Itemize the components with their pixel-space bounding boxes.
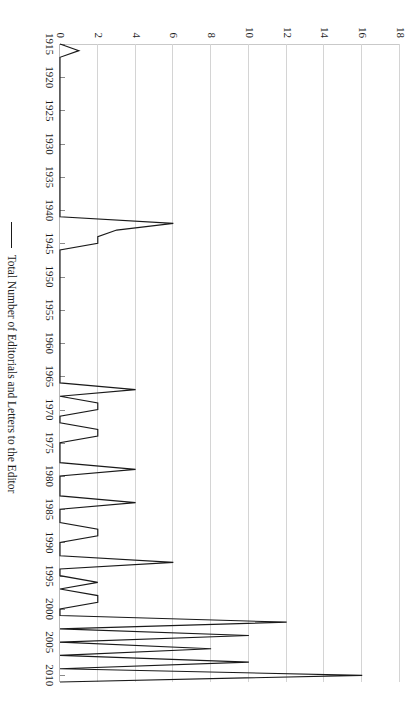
y-tick-label-16: 16	[357, 27, 368, 38]
x-tick-label-1975: 1975	[44, 432, 55, 454]
x-tick-label-1970: 1970	[44, 399, 55, 421]
y-tick-label-12: 12	[281, 27, 292, 38]
x-tick-label-1995: 1995	[44, 565, 55, 587]
x-tick-label-1915: 1915	[44, 33, 55, 55]
x-tick-label-2005: 2005	[44, 631, 55, 653]
line-chart-figure: 024681012141618 191519201925193019351940…	[0, 0, 418, 715]
y-tick-label-2: 2	[92, 33, 103, 39]
y-tick-label-14: 14	[319, 27, 330, 38]
x-tick-label-1955: 1955	[44, 299, 55, 321]
x-tick-label-2010: 2010	[44, 664, 55, 686]
x-tick-label-1930: 1930	[44, 133, 55, 155]
x-tick-label-1920: 1920	[44, 66, 55, 88]
y-tick-label-10: 10	[243, 27, 254, 38]
legend-label: Total Number of Editorials and Letters t…	[6, 255, 18, 494]
series-plot	[60, 44, 400, 682]
x-tick-label-1950: 1950	[44, 266, 55, 288]
y-tick-label-8: 8	[206, 33, 217, 39]
x-tick-label-1925: 1925	[44, 99, 55, 121]
y-tick-label-4: 4	[130, 33, 141, 39]
plot-area: 024681012141618 191519201925193019351940…	[60, 44, 400, 682]
chart-legend: Total Number of Editorials and Letters t…	[6, 0, 18, 715]
x-tick-label-2000: 2000	[44, 598, 55, 620]
x-tick-label-1935: 1935	[44, 166, 55, 188]
x-tick-label-1945: 1945	[44, 232, 55, 254]
x-tick-label-1980: 1980	[44, 465, 55, 487]
y-tick-label-18: 18	[395, 27, 406, 38]
series-line-editorials-letters	[60, 44, 362, 682]
x-tick-label-1985: 1985	[44, 498, 55, 520]
x-tick-label-1965: 1965	[44, 365, 55, 387]
y-tick-label-6: 6	[168, 33, 179, 39]
legend-line-swatch	[12, 222, 13, 248]
figure-rotation-wrapper: 024681012141618 191519201925193019351940…	[0, 0, 418, 715]
y-tick-label-0: 0	[55, 33, 66, 39]
x-tick-label-1990: 1990	[44, 531, 55, 553]
x-tick-label-1940: 1940	[44, 199, 55, 221]
x-tick-label-1960: 1960	[44, 332, 55, 354]
